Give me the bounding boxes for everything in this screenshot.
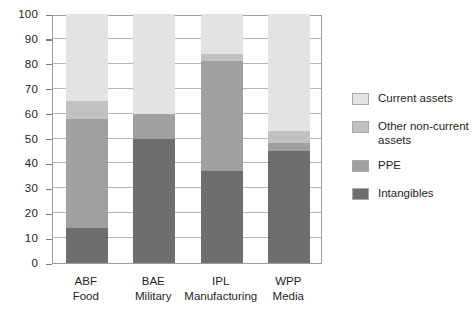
bar-segment-ipl-other-non-current-assets[interactable] [201,54,243,61]
y-tick-label-60: 60 [8,109,38,121]
y-tick-label-10: 10 [8,233,38,245]
legend-item-current-assets[interactable]: Current assets [352,92,470,108]
y-tick-label-70: 70 [8,84,38,96]
bar-segment-bae-current-assets[interactable] [133,14,175,114]
y-axis: 1009080706050403020100 [0,0,52,320]
legend-item-ppe[interactable]: PPE [352,159,470,175]
bar-segment-bae-intangibles[interactable] [133,139,175,264]
plot-area [52,15,322,264]
y-tick-label-30: 30 [8,183,38,195]
bar-segment-abf-ppe[interactable] [66,119,108,229]
bar-segment-ipl-intangibles[interactable] [201,171,243,263]
y-tick-label-40: 40 [8,158,38,170]
bar-segment-ipl-ppe[interactable] [201,61,243,171]
bar-segment-wpp-intangibles[interactable] [268,151,310,263]
x-axis-label-sector: Media [233,289,343,304]
y-tick-label-20: 20 [8,208,38,220]
legend-swatch-icon [352,121,369,133]
bar-wpp[interactable] [268,14,310,263]
legend-label: Intangibles [378,187,470,201]
bar-ipl[interactable] [201,14,243,263]
y-tick-label-50: 50 [8,134,38,146]
x-axis-label-wpp: WPPMedia [233,274,343,304]
bar-abf[interactable] [66,14,108,263]
y-tick-label-100: 100 [8,9,38,21]
bar-segment-abf-current-assets[interactable] [66,14,108,101]
y-tick-label-90: 90 [8,34,38,46]
legend-label: PPE [378,159,470,173]
legend-item-intangibles[interactable]: Intangibles [352,187,470,203]
bar-segment-abf-intangibles[interactable] [66,228,108,263]
legend-swatch-icon [352,188,369,200]
stacked-bar-chart: 1009080706050403020100 ABFFoodBAEMilitar… [0,0,472,320]
legend-item-other-non-current-assets[interactable]: Other non-current assets [352,120,470,147]
bar-segment-ipl-current-assets[interactable] [201,14,243,54]
bar-segment-wpp-ppe[interactable] [268,143,310,150]
legend-label: Other non-current assets [378,120,470,147]
y-tick-label-0: 0 [8,258,38,270]
legend-swatch-icon [352,93,369,105]
bar-segment-abf-other-non-current-assets[interactable] [66,101,108,118]
legend-swatch-icon [352,160,369,172]
y-tick-label-80: 80 [8,59,38,71]
bar-segment-wpp-other-non-current-assets[interactable] [268,131,310,143]
bar-bae[interactable] [133,14,175,263]
bar-segment-wpp-current-assets[interactable] [268,14,310,131]
bar-segment-bae-ppe[interactable] [133,114,175,139]
x-axis-label-code: WPP [233,274,343,289]
legend-label: Current assets [378,92,470,106]
legend: Current assetsOther non-current assetsPP… [352,92,470,215]
